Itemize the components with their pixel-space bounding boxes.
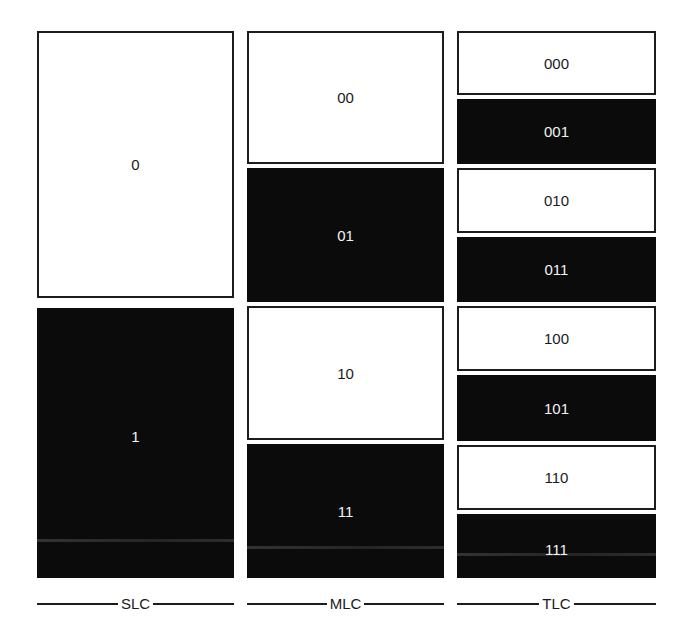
tlc-cell-111: 111 xyxy=(457,514,656,578)
label-rule-left xyxy=(247,603,327,605)
label-slc: SLC xyxy=(37,594,234,614)
label-rule-right xyxy=(153,603,234,605)
cell-value: 101 xyxy=(544,400,569,417)
label-rule-right xyxy=(364,603,444,605)
cell-value: 110 xyxy=(545,469,569,486)
cell-value: 000 xyxy=(544,55,569,72)
label-mlc: MLC xyxy=(247,594,444,614)
cell-value: 00 xyxy=(337,89,354,106)
scan-streak xyxy=(37,539,234,542)
tlc-cell-001: 001 xyxy=(457,99,656,164)
cell-value: 11 xyxy=(338,503,354,520)
label-rule-left xyxy=(37,603,118,605)
label-rule-right xyxy=(574,603,656,605)
mlc-cell-10: 10 xyxy=(247,306,444,440)
column-label: TLC xyxy=(539,594,573,614)
label-rule-left xyxy=(457,603,539,605)
tlc-cell-010: 010 xyxy=(457,168,656,233)
scan-streak xyxy=(247,546,444,549)
cell-value: 10 xyxy=(337,365,354,382)
tlc-cell-000: 000 xyxy=(457,31,656,95)
cell-value: 100 xyxy=(544,330,569,347)
tlc-cell-110: 110 xyxy=(457,445,656,510)
mlc-cell-01: 01 xyxy=(247,168,444,302)
cell-value: 01 xyxy=(337,227,354,244)
cell-value: 011 xyxy=(545,261,569,278)
tlc-cell-101: 101 xyxy=(457,375,656,441)
slc-cell-0: 0 xyxy=(37,31,234,298)
cell-value: 0 xyxy=(131,156,139,173)
cell-value: 001 xyxy=(544,123,569,140)
slc-cell-1: 1 xyxy=(37,308,234,578)
cell-value: 1 xyxy=(131,428,139,445)
cell-value: 111 xyxy=(545,541,568,558)
tlc-cell-011: 011 xyxy=(457,237,656,302)
column-label: SLC xyxy=(118,594,153,614)
label-tlc: TLC xyxy=(457,594,656,614)
tlc-cell-100: 100 xyxy=(457,306,656,371)
column-label: MLC xyxy=(327,594,365,614)
cell-value: 010 xyxy=(544,192,569,209)
mlc-cell-00: 00 xyxy=(247,31,444,164)
mlc-cell-11: 11 xyxy=(247,444,444,578)
